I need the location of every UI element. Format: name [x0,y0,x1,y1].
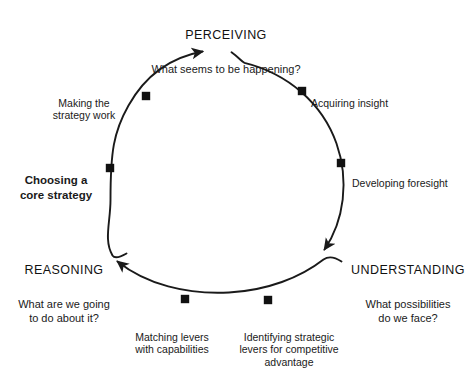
node-identifying-levers: Identifying strategic levers for competi… [228,311,350,372]
arc-understanding-to-reasoning [118,257,342,292]
marker-developing-foresight [337,159,345,167]
cycle-node-markers [106,87,345,304]
node-developing-foresight: Developing foresight [352,157,472,209]
phase-perceiving-question: What seems to be happening? [106,63,346,76]
node-making-strategy-work: Making the strategy work [30,77,138,142]
node-acquiring-insight-label: Acquiring insight [311,97,431,110]
phase-understanding-question: What possibilities do we face? [344,298,472,325]
node-identifying-levers-label: Identifying strategic levers for competi… [228,331,350,369]
node-choosing-core-strategy-label: Choosing a core strategy [2,173,110,203]
phase-reasoning: REASONING What are we going to do about … [6,243,122,345]
phase-understanding-heading: UNDERSTANDING [344,263,472,278]
node-matching-levers-label: Matching levers with capabilities [118,331,226,357]
node-matching-levers: Matching levers with capabilities [118,311,226,372]
node-acquiring-insight: Acquiring insight [311,77,431,129]
phase-reasoning-question: What are we going to do about it? [6,298,122,325]
node-choosing-core-strategy: Choosing a core strategy [2,153,110,222]
phase-reasoning-heading: REASONING [6,263,122,278]
phase-perceiving-heading: PERCEIVING [106,28,346,43]
phase-understanding: UNDERSTANDING What possibilities do we f… [344,243,472,345]
marker-identifying-levers [264,296,272,304]
node-developing-foresight-label: Developing foresight [352,177,472,190]
marker-matching-levers [181,295,189,303]
node-making-strategy-work-label: Making the strategy work [30,97,138,123]
phase-perceiving: PERCEIVING What seems to be happening? [106,8,346,96]
